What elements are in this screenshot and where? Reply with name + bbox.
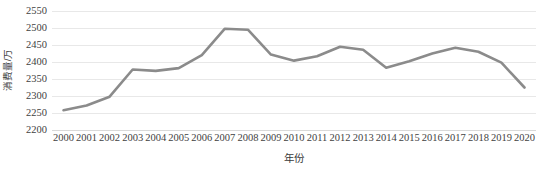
y-axis-tick-labels: 22002250230023502400245025002550	[14, 0, 50, 140]
x-tick-label: 2017	[445, 133, 466, 144]
x-tick-label: 2007	[214, 133, 235, 144]
y-tick-label: 2350	[26, 74, 47, 85]
x-tick-label: 2014	[376, 133, 397, 144]
y-tick-label: 2450	[26, 40, 47, 51]
y-tick-label: 2200	[26, 125, 47, 136]
line-chart: 消费量/万 22002250230023502400245025002550 2…	[0, 0, 544, 178]
x-axis-title: 年份	[52, 150, 536, 165]
x-tick-label: 2005	[168, 133, 189, 144]
x-axis-title-text: 年份	[284, 152, 304, 164]
gridline	[52, 130, 536, 131]
x-axis-tick-labels: 2000200120022003200420052006200720082009…	[52, 133, 536, 149]
x-tick-label: 2019	[491, 133, 512, 144]
y-axis-title: 消费量/万	[0, 0, 14, 140]
x-tick-label: 2013	[353, 133, 374, 144]
x-tick-label: 2003	[122, 133, 143, 144]
y-axis-title-text: 消费量/万	[0, 49, 14, 92]
x-tick-label: 2000	[53, 133, 74, 144]
x-tick-label: 2018	[468, 133, 489, 144]
x-tick-label: 2006	[191, 133, 212, 144]
x-tick-label: 2004	[145, 133, 166, 144]
y-tick-label: 2500	[26, 23, 47, 34]
x-tick-label: 2016	[422, 133, 443, 144]
x-tick-label: 2012	[330, 133, 351, 144]
x-tick-label: 2008	[237, 133, 258, 144]
x-tick-label: 2015	[399, 133, 420, 144]
y-tick-label: 2400	[26, 57, 47, 68]
y-tick-label: 2300	[26, 91, 47, 102]
y-tick-label: 2250	[26, 108, 47, 119]
plot-area	[52, 11, 536, 130]
x-tick-label: 2009	[260, 133, 281, 144]
x-tick-label: 2002	[99, 133, 120, 144]
data-line-consumption	[64, 29, 525, 111]
x-tick-label: 2020	[514, 133, 535, 144]
series-layer	[52, 11, 536, 130]
x-tick-label: 2011	[307, 133, 328, 144]
y-tick-label: 2550	[26, 6, 47, 17]
x-tick-label: 2010	[284, 133, 305, 144]
x-tick-label: 2001	[76, 133, 97, 144]
